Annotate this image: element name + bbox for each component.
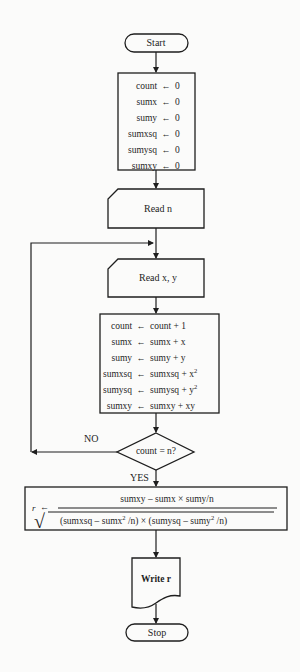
- acc-row-4-lhs: sumysq: [103, 382, 134, 398]
- acc-row-0-lhs: count: [103, 318, 134, 334]
- no-branch-label: NO: [84, 434, 98, 444]
- assign-arrow-icon: ←: [159, 94, 173, 110]
- decision-label: count = n?: [136, 447, 176, 457]
- acc-row-5-lhs: sumxy: [103, 398, 134, 414]
- yes-branch-label: YES: [130, 473, 149, 483]
- formula-denominator: (sumxsq – sumx2 /n) × (sumysq – sumy2 /n…: [60, 516, 227, 526]
- assign-arrow-icon: ←: [159, 110, 173, 126]
- formula-numerator: sumxy – sumx × sumy/n: [120, 494, 214, 504]
- init-row-0-lhs: count: [128, 78, 159, 94]
- init-assignments: count ← 0 sumx ← 0 sumy ← 0 sumxsq ← 0 s…: [128, 78, 180, 174]
- init-row-3-rhs: 0: [173, 126, 180, 142]
- stop-label: Stop: [148, 628, 166, 638]
- assign-arrow-icon: ←: [134, 318, 148, 334]
- acc-row-0-rhs: count + 1: [148, 318, 197, 334]
- init-row-2-lhs: sumy: [128, 110, 159, 126]
- init-row-5-rhs: 0: [173, 158, 180, 174]
- sqrt-icon: √: [34, 511, 45, 531]
- write-r-label: Write r: [141, 575, 171, 585]
- read-xy-label: Read x, y: [139, 273, 177, 283]
- assign-arrow-icon: ←: [159, 158, 173, 174]
- init-row-0-rhs: 0: [173, 78, 180, 94]
- init-row-1-lhs: sumx: [128, 94, 159, 110]
- init-row-2-rhs: 0: [173, 110, 180, 126]
- acc-row-3-lhs: sumxsq: [103, 366, 134, 382]
- assign-arrow-icon: ←: [159, 78, 173, 94]
- assign-arrow-icon: ←: [134, 366, 148, 382]
- acc-row-1-rhs: sumx + x: [148, 334, 197, 350]
- init-row-1-rhs: 0: [173, 94, 180, 110]
- accumulate-assignments: count ← count + 1 sumx ← sumx + x sumy ←…: [103, 318, 197, 414]
- init-row-4-lhs: sumysq: [128, 142, 159, 158]
- acc-row-5-rhs: sumxy + xy: [148, 398, 197, 414]
- assign-arrow-icon: ←: [134, 334, 148, 350]
- acc-row-3-rhs: sumxsq + x2: [148, 366, 197, 382]
- assign-arrow-icon: ←: [159, 142, 173, 158]
- acc-row-4-rhs: sumysq + y2: [148, 382, 197, 398]
- init-row-3-lhs: sumxsq: [128, 126, 159, 142]
- acc-row-2-lhs: sumy: [103, 350, 134, 366]
- init-row-4-rhs: 0: [173, 142, 180, 158]
- acc-row-2-rhs: sumy + y: [148, 350, 197, 366]
- assign-arrow-icon: ←: [159, 126, 173, 142]
- assign-arrow-icon: ←: [134, 382, 148, 398]
- init-row-5-lhs: sumxy: [128, 158, 159, 174]
- assign-arrow-icon: ←: [134, 350, 148, 366]
- acc-row-1-lhs: sumx: [103, 334, 134, 350]
- start-label: Start: [147, 38, 166, 48]
- assign-arrow-icon: ←: [134, 398, 148, 414]
- read-n-label: Read n: [144, 204, 172, 214]
